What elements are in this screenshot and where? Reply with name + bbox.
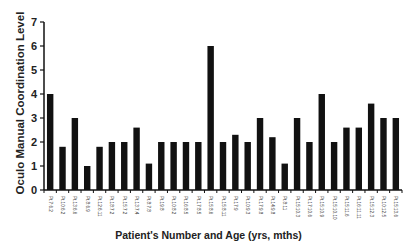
bar: [207, 46, 213, 190]
bar: [170, 142, 176, 190]
y-tick-label: 5: [31, 64, 37, 76]
x-tick-label: Pt.15:12.3: [369, 196, 374, 217]
bar: [195, 142, 201, 190]
x-tick-label: Pt.10:12.5: [381, 196, 386, 217]
y-tick-label: 0: [31, 184, 37, 196]
bar: [393, 118, 399, 190]
x-tick-label: Pt.7:6.2: [48, 196, 53, 212]
x-tick-label: Pt.19:8: [159, 196, 164, 211]
bar: [84, 166, 90, 190]
bar: [158, 142, 164, 190]
x-tick-label: Pt.12:6.11: [97, 196, 102, 217]
bar: [269, 137, 275, 190]
x-tick-label: Pt.13:6.6: [72, 196, 77, 215]
bar: [356, 128, 362, 190]
y-tick-label: 3: [31, 112, 37, 124]
x-tick-label: Pt.17:10.6: [307, 196, 312, 217]
x-tick-label: Pt.8:6.9: [85, 196, 90, 212]
x-tick-label: Pt.18:7.2: [109, 196, 114, 215]
x-tick-label: Pt.17:8.5: [196, 196, 201, 215]
x-tick-label: Pt.15:10.10: [332, 196, 337, 220]
bar: [146, 164, 152, 190]
x-tick-label: Pt.10:8.2: [171, 196, 176, 215]
x-tick-label: Pt.15:8.11: [221, 196, 226, 217]
x-tick-label: Pt.14:9.8: [270, 196, 275, 215]
y-tick-label: 2: [31, 136, 37, 148]
y-tick-label: 6: [31, 40, 37, 52]
bar: [183, 142, 189, 190]
x-axis-label: Patient's Number and Age (yrs, mths): [0, 229, 417, 241]
x-tick-label: Pt.8:11: [282, 196, 287, 211]
y-tick-label: 7: [31, 16, 37, 28]
x-tick-label: Pt.10:6.2: [60, 196, 65, 215]
x-tick-label: Pt.15:11.6: [344, 196, 349, 217]
bar: [96, 147, 102, 190]
x-tick-label: Pt.15:13.6: [393, 196, 398, 217]
x-tick-label: Pt.16:11.11: [356, 196, 361, 219]
bar: [232, 135, 238, 190]
x-tick-label: Pt.13:7.4: [134, 196, 139, 215]
bar: [343, 128, 349, 190]
bar: [294, 118, 300, 190]
x-tick-label: Pt.15:10.3: [295, 196, 300, 217]
bar: [368, 104, 374, 190]
bar: [257, 118, 263, 190]
y-tick-label: 4: [31, 88, 38, 100]
y-tick-label: 1: [31, 160, 37, 172]
bar: [331, 142, 337, 190]
bar: [282, 164, 288, 190]
bar: [306, 142, 312, 190]
bar: [380, 118, 386, 190]
x-tick-label: Pt.15:7.2: [122, 196, 127, 215]
x-tick-label: Pt.10:9.3: [245, 196, 250, 215]
x-tick-label: Pt.15:10.9: [319, 196, 324, 217]
bar: [133, 128, 139, 190]
bar: [59, 147, 65, 190]
x-tick-label: Pt.15:8.6: [208, 196, 213, 215]
x-tick-label: Pt.8:7.8: [146, 196, 151, 212]
x-tick-label: Pt.17:9.8: [258, 196, 263, 215]
x-tick-label: Pt.17:9: [233, 196, 238, 211]
bar: [244, 142, 250, 190]
bar: [72, 118, 78, 190]
bar: [121, 142, 127, 190]
bar: [47, 94, 53, 190]
bar: [109, 142, 115, 190]
x-tick-label: Pt.16:8.5: [183, 196, 188, 215]
bar: [319, 94, 325, 190]
bar-chart: 01234567Pt.7:6.2Pt.10:6.2Pt.13:6.6Pt.8:6…: [0, 0, 417, 251]
bar: [220, 142, 226, 190]
